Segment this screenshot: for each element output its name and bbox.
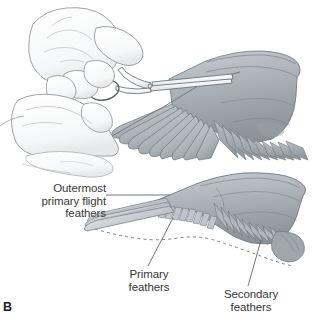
- top-wing-group: [112, 51, 308, 160]
- bottom-panel-group: [84, 173, 305, 266]
- label-secondary-feathers: Secondary feathers: [206, 288, 296, 313]
- left-hand: [0, 94, 118, 156]
- bottom-wingtip-tuft: [272, 232, 305, 263]
- scissors-pivot-screw: [148, 84, 152, 88]
- label-primary-feathers: Primary feathers: [113, 268, 185, 293]
- top-panel-group: [0, 8, 308, 160]
- panel-letter-b: B: [3, 300, 12, 314]
- label-outermost-primary-flight-feathers: Outermost primary flight feathers: [6, 182, 106, 220]
- figure-container: Outermost primary flight feathers Primar…: [0, 0, 314, 321]
- scissors-shank-upper: [118, 67, 151, 89]
- leader-line-primary: [148, 218, 173, 266]
- leader-line-secondary: [248, 240, 261, 286]
